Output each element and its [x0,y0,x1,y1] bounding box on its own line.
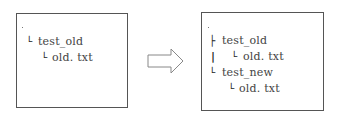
right-arrow-icon [147,48,185,74]
file-label: old. txt [52,52,93,64]
tree-corner-icon: └ [209,67,215,79]
tree-corner-icon: └ [231,51,237,63]
tree-corner-icon: └ [26,36,32,48]
tree-vertical-line-icon: | [210,51,216,63]
tree-corner-icon: └ [41,52,47,64]
after-root-dot [208,27,209,28]
folder-label: test_old [38,36,83,48]
tree-corner-icon: └ [228,83,234,95]
before-root-dot [22,27,23,28]
folder-label: test_old [222,35,267,47]
tree-tee-icon: ├ [209,35,215,47]
file-label: old. txt [239,83,280,95]
folder-label: test_new [222,67,273,79]
file-label: old. txt [243,51,284,63]
